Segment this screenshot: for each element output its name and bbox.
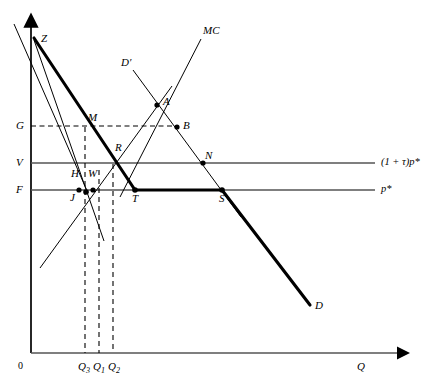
price-axis-label-G: G	[16, 120, 24, 131]
x-axis-label: Q	[357, 361, 365, 372]
point-label-B: B	[183, 120, 190, 131]
x-tick-Q1-base: Q	[93, 360, 101, 372]
point-label-T: T	[132, 193, 138, 204]
x-tick-Q2-sub: 2	[116, 366, 120, 375]
x-tick-Q2-base: Q	[108, 360, 116, 372]
price-axis-label-V: V	[16, 157, 23, 168]
mr-line	[34, 40, 104, 241]
point-label-A: A	[163, 96, 170, 107]
curve-label-MC: MC	[203, 25, 220, 36]
x-tick-label-Q3: Q3	[78, 361, 90, 375]
marker-H	[76, 187, 81, 192]
point-label-S: S	[219, 193, 225, 204]
point-label-H: H	[71, 168, 79, 179]
economics-diagram-svg	[0, 0, 432, 388]
quantity-droplines	[85, 127, 113, 353]
label-tariff-inclusive-price: (1 + τ)p*	[381, 157, 420, 168]
x-tick-Q1-sub: 1	[101, 366, 105, 375]
x-tick-Q3-base: Q	[78, 360, 86, 372]
point-label-M: M	[88, 112, 97, 123]
marker-W	[90, 187, 95, 192]
x-tick-label-Q1: Q1	[93, 361, 105, 375]
curve-label-D: D	[315, 300, 323, 311]
price-axis-label-F: F	[16, 184, 23, 195]
point-label-R: R	[115, 142, 122, 153]
point-label-J: J	[70, 192, 75, 203]
curve-label-Dprime: D′	[121, 57, 131, 68]
marker-N	[200, 160, 205, 165]
marker-B	[174, 124, 179, 129]
x-tick-Q3-sub: 3	[86, 366, 90, 375]
demand-lower-segment	[222, 190, 310, 305]
axis-origin-label: 0	[18, 361, 23, 371]
curve-MR	[34, 40, 104, 241]
marker-A	[154, 102, 159, 107]
diagram-canvas: Z M R A B N H W J T S MC D′ D G V F (1 +…	[0, 0, 432, 388]
curve-MC	[120, 39, 201, 197]
x-tick-label-Q2: Q2	[108, 361, 120, 375]
mc-line	[120, 39, 201, 197]
point-label-N: N	[205, 150, 212, 161]
marker-J	[83, 189, 89, 195]
point-label-W: W	[88, 168, 97, 179]
point-label-Z: Z	[41, 33, 47, 44]
label-world-price: p*	[381, 184, 392, 195]
